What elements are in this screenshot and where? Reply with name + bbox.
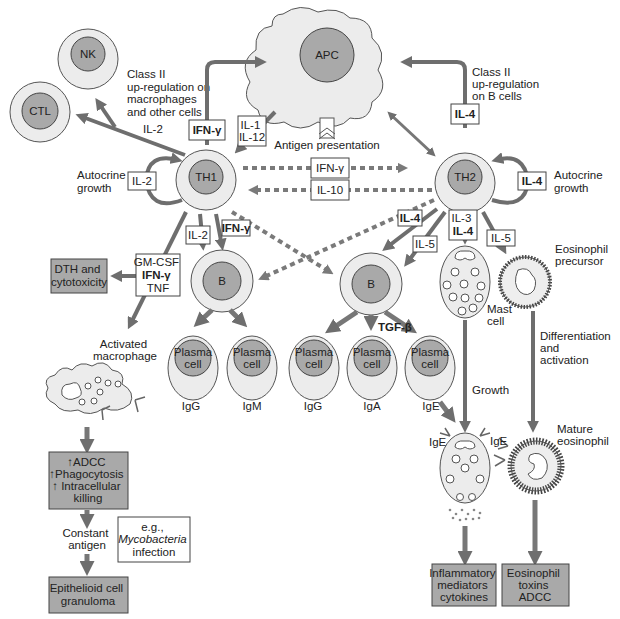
arrow-apc-th2-bidirectional <box>390 114 433 154</box>
svg-text:IFN-γ: IFN-γ <box>193 124 222 136</box>
nk-cell: NK <box>58 29 118 89</box>
svg-text:NK: NK <box>80 48 96 60</box>
activated-macrophage-label: Activated macrophage <box>93 338 157 362</box>
svg-text:IL-4: IL-4 <box>455 108 476 120</box>
svg-text:Epithelioid cell granuloma: Epithelioid cell granuloma <box>50 582 127 607</box>
svg-text:B: B <box>367 278 375 290</box>
arrow-ige-to-mast <box>440 402 452 418</box>
output-iga: IgA <box>363 400 381 412</box>
arrow-th1-to-ctl <box>80 116 185 155</box>
svg-text:TH1: TH1 <box>195 171 217 183</box>
plasma-cell-5: Plasmacell <box>405 336 455 400</box>
svg-text:IFN-γ: IFN-γ <box>316 162 344 174</box>
svg-text:IL-2: IL-2 <box>132 175 152 187</box>
mast-cell-label: Mast cell <box>487 303 515 327</box>
plasma-cell-3: Plasmacell <box>289 336 339 400</box>
antigen-presentation-label: Antigen presentation <box>274 139 380 151</box>
eosinophil-precursor <box>500 257 550 307</box>
growth-label: Growth <box>472 384 509 396</box>
differentiation-label: Differentiation and activation <box>540 330 614 366</box>
class2-macrophages-label: Class II up-regulation on macrophages an… <box>127 68 213 118</box>
svg-text:IL-3 IL-4: IL-3 IL-4 <box>451 212 474 237</box>
ige-eos-label: IgE <box>490 435 508 447</box>
ige-mast-label: IgE <box>429 436 447 448</box>
b-cell-right: B <box>340 253 402 315</box>
output-igm: IgM <box>242 400 261 412</box>
apc-label: APC <box>315 49 339 61</box>
eosinophil-precursor-label: Eosinophil precursor <box>555 243 611 267</box>
autocrine-left-label: Autocrine growth <box>77 169 129 194</box>
b-cell-left: B <box>191 250 253 312</box>
mast-cell <box>440 246 490 318</box>
plasma-cell-4: Plasmacell <box>347 336 397 400</box>
output-igg-2: IgG <box>304 400 323 412</box>
tgf-beta-label: TGF-β <box>378 321 412 333</box>
il2-ctl-label: IL-2 <box>143 123 163 135</box>
svg-text:B: B <box>218 275 226 287</box>
output-ige: IgE <box>422 400 440 412</box>
svg-text:IFN-γ: IFN-γ <box>222 222 251 234</box>
svg-text:IL-10: IL-10 <box>317 184 343 196</box>
class2-bcells-label: Class II up-regulation on B cells <box>472 66 542 102</box>
ctl-cell: CTL <box>10 82 70 142</box>
svg-text:IL-1 IL-12: IL-1 IL-12 <box>239 119 265 143</box>
plasma-cell-2: Plasmacell <box>227 336 277 400</box>
output-igg-1: IgG <box>182 400 201 412</box>
activated-macrophage <box>46 363 145 420</box>
svg-text:CTL: CTL <box>29 105 51 117</box>
plasma-cell-1: Plasmacell <box>168 336 218 400</box>
svg-text:IL-2: IL-2 <box>188 229 208 241</box>
immune-cytokine-diagram: APC Antigen presentation NK CTL IL-2 Cla… <box>0 0 620 619</box>
th2-cell: TH2 <box>435 153 495 213</box>
svg-text:DTH and cytotoxicity: DTH and cytotoxicity <box>51 263 107 288</box>
svg-text:TH2: TH2 <box>454 171 476 183</box>
svg-text:IL-5: IL-5 <box>415 238 435 250</box>
svg-text:IL-4: IL-4 <box>522 175 543 187</box>
constant-antigen-label: Constant antigen <box>62 527 111 551</box>
svg-text:IL-5: IL-5 <box>491 232 511 244</box>
th1-cell: TH1 <box>176 150 236 210</box>
svg-text:IL-4: IL-4 <box>400 212 421 224</box>
autocrine-right-label: Autocrine growth <box>554 169 606 194</box>
activated-mast-cell <box>440 428 490 521</box>
mature-eosinophil-label: Mature eosinophil <box>557 423 609 447</box>
